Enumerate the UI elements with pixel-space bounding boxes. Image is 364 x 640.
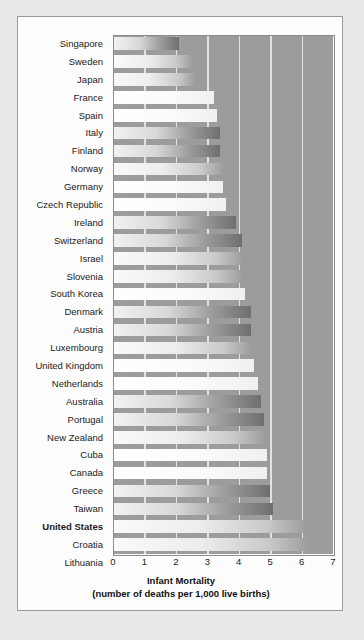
category-label: Czech Republic bbox=[18, 196, 109, 214]
category-label: Canada bbox=[18, 464, 109, 482]
axis-title-sub: (number of deaths per 1,000 live births) bbox=[18, 587, 344, 600]
category-label: Israel bbox=[18, 250, 109, 268]
bar-row bbox=[113, 142, 333, 160]
bar-row bbox=[113, 321, 333, 339]
category-label: France bbox=[18, 89, 109, 107]
bar bbox=[113, 270, 242, 283]
bar bbox=[113, 324, 251, 337]
axis-tick-label: 6 bbox=[293, 556, 311, 567]
category-label: Finland bbox=[18, 142, 109, 160]
bar-row bbox=[113, 232, 333, 250]
bar-row bbox=[113, 500, 333, 518]
category-label: Spain bbox=[18, 107, 109, 125]
axis-tick-label: 7 bbox=[324, 556, 342, 567]
bar bbox=[113, 342, 251, 355]
category-axis-labels: SingaporeSwedenJapanFranceSpainItalyFinl… bbox=[18, 35, 109, 572]
bar-row bbox=[113, 482, 333, 500]
bar-row bbox=[113, 178, 333, 196]
bar bbox=[113, 413, 264, 426]
chart-plot-area: SingaporeSwedenJapanFranceSpainItalyFinl… bbox=[18, 17, 344, 612]
bar bbox=[113, 234, 242, 247]
axis-tick-label: 0 bbox=[104, 556, 122, 567]
axis-tick-label: 5 bbox=[261, 556, 279, 567]
category-label: Taiwan bbox=[18, 500, 109, 518]
category-label: Ireland bbox=[18, 214, 109, 232]
bar bbox=[113, 520, 305, 533]
axis-tick-label: 4 bbox=[230, 556, 248, 567]
bar bbox=[113, 538, 308, 551]
bar-row bbox=[113, 536, 333, 554]
category-label: Netherlands bbox=[18, 375, 109, 393]
bar bbox=[113, 288, 245, 301]
bar bbox=[113, 145, 220, 158]
bar bbox=[113, 485, 270, 498]
category-label: Italy bbox=[18, 124, 109, 142]
chart-figure: SingaporeSwedenJapanFranceSpainItalyFinl… bbox=[17, 16, 343, 611]
bar-row bbox=[113, 71, 333, 89]
bar-row bbox=[113, 196, 333, 214]
axis-tick-label: 3 bbox=[198, 556, 216, 567]
bar-row bbox=[113, 303, 333, 321]
bar bbox=[113, 306, 251, 319]
bar bbox=[113, 127, 220, 140]
bar bbox=[113, 395, 261, 408]
bar-row bbox=[113, 35, 333, 53]
bar bbox=[113, 252, 242, 265]
bar-row bbox=[113, 464, 333, 482]
bar-row bbox=[113, 411, 333, 429]
bar-row bbox=[113, 107, 333, 125]
category-label: Lithuania bbox=[18, 554, 109, 572]
bar bbox=[113, 198, 226, 211]
bar bbox=[113, 431, 264, 444]
category-label: Luxembourg bbox=[18, 339, 109, 357]
category-label: Norway bbox=[18, 160, 109, 178]
value-axis-ticks: 01234567 bbox=[113, 554, 333, 572]
category-label: Cuba bbox=[18, 446, 109, 464]
bar bbox=[113, 359, 254, 372]
category-label: New Zealand bbox=[18, 429, 109, 447]
bar-row bbox=[113, 250, 333, 268]
bar-row bbox=[113, 285, 333, 303]
bar-row bbox=[113, 393, 333, 411]
bar-row bbox=[113, 518, 333, 536]
category-label: South Korea bbox=[18, 285, 109, 303]
category-label: Sweden bbox=[18, 53, 109, 71]
bar bbox=[113, 503, 273, 516]
bar-row bbox=[113, 339, 333, 357]
bar-row bbox=[113, 357, 333, 375]
category-label: Portugal bbox=[18, 411, 109, 429]
category-label: Singapore bbox=[18, 35, 109, 53]
bars-container bbox=[113, 35, 333, 554]
category-label: United Kingdom bbox=[18, 357, 109, 375]
category-label: United States bbox=[18, 518, 109, 536]
bar bbox=[113, 449, 267, 462]
axis-title-main: Infant Mortality bbox=[18, 574, 344, 587]
bar-row bbox=[113, 214, 333, 232]
bar bbox=[113, 55, 192, 68]
category-label: Australia bbox=[18, 393, 109, 411]
category-label: Denmark bbox=[18, 303, 109, 321]
bar bbox=[113, 181, 223, 194]
bar-row bbox=[113, 375, 333, 393]
axis-tick-label: 1 bbox=[135, 556, 153, 567]
category-label: Switzerland bbox=[18, 232, 109, 250]
bar bbox=[113, 73, 195, 86]
bar-row bbox=[113, 268, 333, 286]
bar-row bbox=[113, 89, 333, 107]
bar-row bbox=[113, 446, 333, 464]
bar bbox=[113, 163, 223, 176]
bar-row bbox=[113, 429, 333, 447]
bar bbox=[113, 216, 236, 229]
bar-row bbox=[113, 160, 333, 178]
category-label: Austria bbox=[18, 321, 109, 339]
bar bbox=[113, 91, 214, 104]
axis-tick-label: 2 bbox=[167, 556, 185, 567]
bar bbox=[113, 109, 217, 122]
axis-title: Infant Mortality (number of deaths per 1… bbox=[18, 574, 344, 600]
category-label: Croatia bbox=[18, 536, 109, 554]
bar bbox=[113, 467, 267, 480]
category-label: Germany bbox=[18, 178, 109, 196]
category-label: Slovenia bbox=[18, 268, 109, 286]
category-label: Japan bbox=[18, 71, 109, 89]
bar-row bbox=[113, 124, 333, 142]
